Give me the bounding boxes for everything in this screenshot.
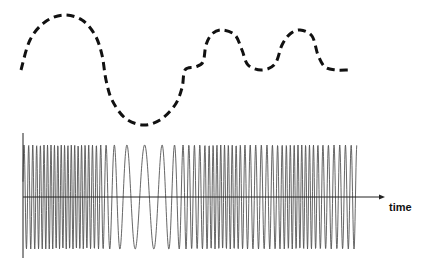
fm-diagram: time <box>0 0 432 269</box>
time-axis-label: time <box>389 201 412 213</box>
